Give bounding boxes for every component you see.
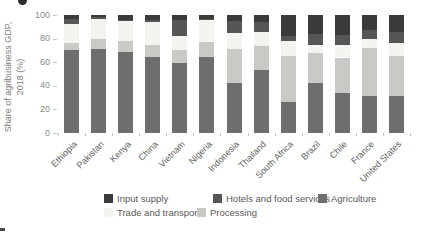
bar-south-africa [281, 15, 296, 133]
x-tick-mark [356, 133, 357, 136]
bar-united-states [389, 15, 404, 133]
x-tick-mark [248, 133, 249, 136]
bar-kenya [118, 15, 133, 133]
bar-segment-hotels-and-food-services [362, 30, 377, 38]
bar-segment-agriculture [145, 57, 160, 133]
bar-segment-trade-and-transport [254, 32, 269, 46]
bar-segment-processing [199, 42, 214, 57]
bar-segment-processing [91, 39, 106, 50]
bar-segment-agriculture [64, 50, 79, 133]
y-tick-label-40: 40 [16, 80, 50, 91]
bar-segment-hotels-and-food-services [227, 21, 242, 33]
y-tick-label-80: 80 [16, 33, 50, 44]
bar-segment-processing [389, 56, 404, 96]
bar-segment-processing [227, 49, 242, 83]
bar-nigeria [199, 15, 214, 133]
x-tick-mark [112, 133, 113, 136]
bar-segment-trade-and-transport [389, 43, 404, 56]
y-tick-mark [53, 39, 57, 40]
bar-segment-trade-and-transport [335, 45, 350, 58]
bar-segment-input-supply [91, 15, 106, 17]
y-tick-label-100: 100 [16, 10, 50, 21]
bar-segment-agriculture [172, 63, 187, 133]
bar-segment-input-supply [362, 15, 377, 30]
bar-segment-processing [254, 46, 269, 71]
bar-pakistan [91, 15, 106, 133]
bar-segment-trade-and-transport [64, 24, 79, 43]
cropped-caption-fragment [18, 0, 27, 5]
bar-indonesia [227, 15, 242, 133]
cropped-page-fragment [0, 228, 5, 231]
bar-segment-hotels-and-food-services [199, 19, 214, 20]
x-tick-mark [85, 133, 86, 136]
bar-segment-input-supply [281, 15, 296, 36]
plot-area [58, 15, 410, 133]
legend-swatch-processing [197, 208, 206, 217]
x-tick-mark [220, 133, 221, 136]
legend-label-input-supply: Input supply [117, 193, 168, 204]
bar-segment-input-supply [254, 15, 269, 22]
bar-segment-processing [281, 56, 296, 102]
bar-segment-hotels-and-food-services [172, 20, 187, 37]
y-axis-title-line1: Share of agribusiness GDP, [3, 14, 15, 140]
bar-segment-agriculture [335, 93, 350, 133]
bar-thailand [254, 15, 269, 133]
bar-segment-hotels-and-food-services [335, 35, 350, 44]
legend-label-trade-and-transport: Trade and transport [117, 207, 200, 218]
bar-segment-processing [172, 50, 187, 63]
bar-segment-hotels-and-food-services [254, 22, 269, 31]
y-tick-label-20: 20 [16, 104, 50, 115]
bar-segment-hotels-and-food-services [64, 19, 79, 25]
legend-swatch-agriculture [318, 194, 327, 203]
bar-segment-processing [64, 43, 79, 50]
bar-segment-hotels-and-food-services [145, 20, 160, 22]
x-tick-mark [166, 133, 167, 136]
bar-segment-hotels-and-food-services [389, 32, 404, 44]
y-tick-mark [53, 133, 57, 134]
bar-segment-trade-and-transport [91, 19, 106, 39]
figure-canvas: Share of agribusiness GDP, 2018 (%) 0204… [0, 0, 424, 232]
bar-segment-agriculture [281, 102, 296, 133]
legend-swatch-input-supply [104, 194, 113, 203]
bar-segment-agriculture [362, 96, 377, 133]
bar-segment-processing [145, 45, 160, 58]
bar-segment-hotels-and-food-services [308, 34, 323, 45]
bar-segment-agriculture [199, 57, 214, 133]
bar-segment-agriculture [389, 96, 404, 133]
x-tick-mark [275, 133, 276, 136]
x-tick-mark [329, 133, 330, 136]
bar-segment-agriculture [227, 83, 242, 133]
bar-segment-trade-and-transport [199, 20, 214, 42]
bar-segment-input-supply [389, 15, 404, 32]
bar-segment-trade-and-transport [118, 21, 133, 41]
x-tick-mark [383, 133, 384, 136]
bar-china [145, 15, 160, 133]
bar-segment-hotels-and-food-services [281, 36, 296, 41]
bar-segment-input-supply [118, 15, 133, 20]
bar-segment-processing [308, 53, 323, 84]
bar-brazil [308, 15, 323, 133]
x-tick-mark [410, 133, 411, 136]
x-tick-mark [58, 133, 59, 136]
x-tick-mark [302, 133, 303, 136]
bar-france [362, 15, 377, 133]
bar-ethiopia [64, 15, 79, 133]
bar-segment-processing [335, 58, 350, 93]
bar-segment-input-supply [308, 15, 323, 34]
legend-swatch-trade-and-transport [104, 208, 113, 217]
bar-segment-agriculture [118, 52, 133, 133]
bar-segment-processing [362, 48, 377, 96]
bar-chile [335, 15, 350, 133]
bar-segment-trade-and-transport [308, 45, 323, 53]
y-tick-label-60: 60 [16, 57, 50, 68]
bar-segment-trade-and-transport [227, 33, 242, 50]
bar-segment-agriculture [91, 49, 106, 133]
y-tick-mark [53, 62, 57, 63]
bar-segment-input-supply [145, 15, 160, 20]
bar-segment-input-supply [172, 15, 187, 20]
legend-label-processing: Processing [210, 207, 257, 218]
bar-segment-input-supply [227, 15, 242, 21]
bar-vietnam [172, 15, 187, 133]
bar-segment-hotels-and-food-services [91, 17, 106, 18]
x-tick-mark [193, 133, 194, 136]
